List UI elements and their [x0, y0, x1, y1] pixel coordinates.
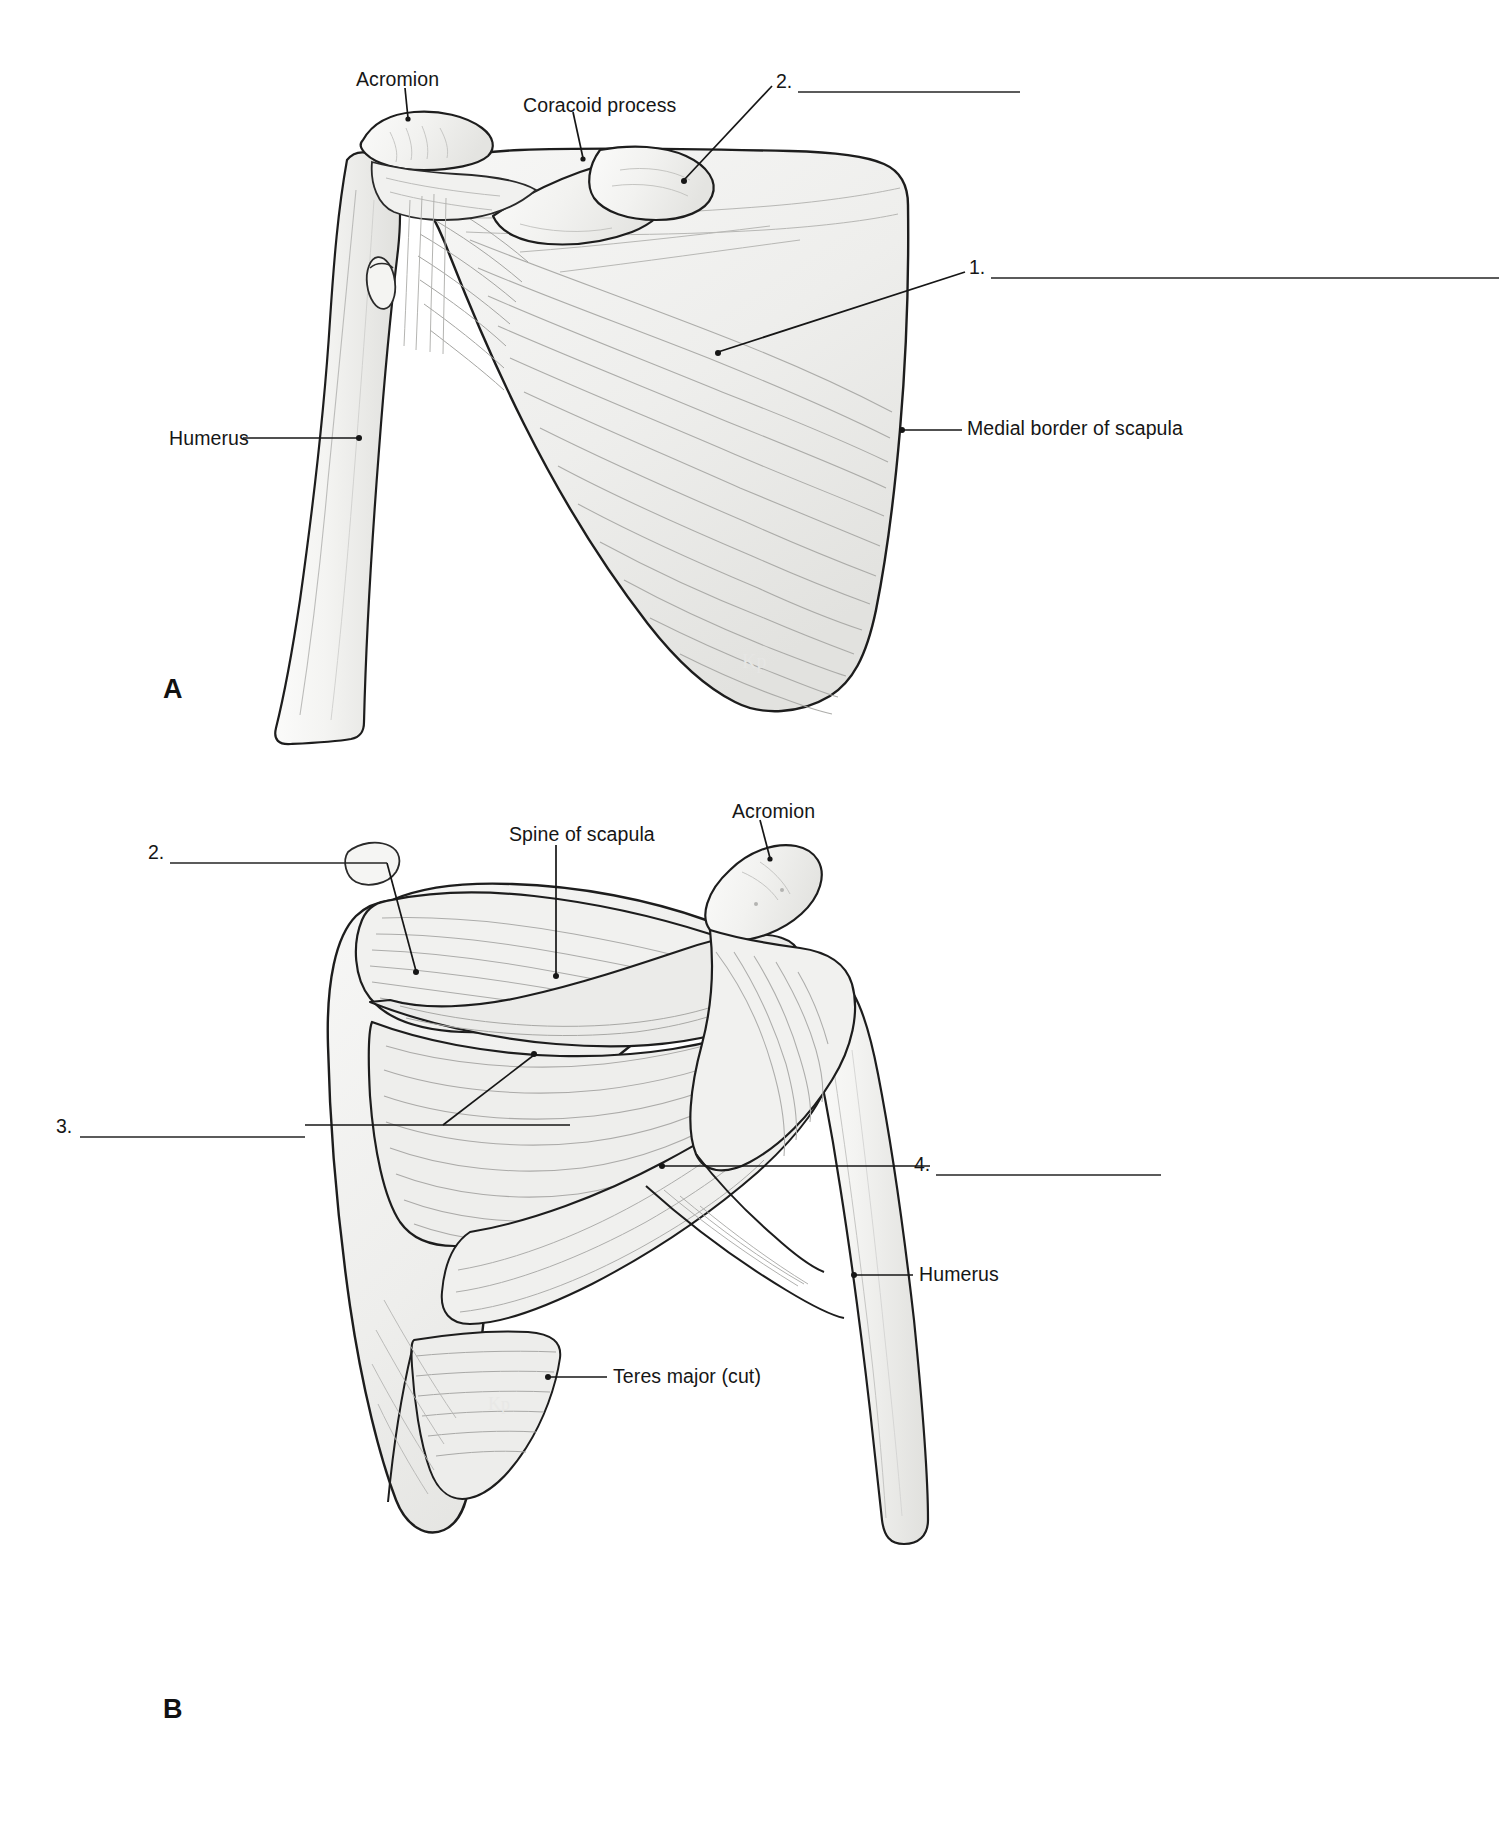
label-coracoid-process-a: Coracoid process	[523, 96, 676, 116]
artist-mark-a: Kp	[742, 650, 766, 673]
blank-number-1-a[interactable]: 1.	[969, 258, 985, 278]
label-spine-of-scapula-b: Spine of scapula	[509, 825, 655, 845]
anatomy-illustration: Kp Kp	[0, 0, 1499, 1833]
label-acromion-b: Acromion	[732, 802, 815, 822]
panel-a-figure	[275, 112, 908, 745]
blank-number-4-b[interactable]: 4.	[914, 1155, 930, 1175]
blank-number-3-b[interactable]: 3.	[56, 1117, 72, 1137]
label-humerus-a: Humerus	[169, 429, 249, 449]
label-teres-major-cut-b: Teres major (cut)	[613, 1367, 761, 1387]
label-humerus-b: Humerus	[919, 1265, 999, 1285]
worksheet-page: Kp Kp Acromion Coracoid process Humerus …	[0, 0, 1499, 1833]
blank-number-2-a[interactable]: 2.	[776, 72, 792, 92]
humeral-head-b	[690, 930, 855, 1170]
panel-letter-a: A	[163, 676, 183, 703]
panel-letter-b: B	[163, 1696, 183, 1723]
label-medial-border-of-scapula-a: Medial border of scapula	[967, 419, 1183, 439]
panel-b-figure	[328, 843, 928, 1544]
label-acromion-a: Acromion	[356, 70, 439, 90]
acromion-b	[705, 845, 821, 940]
blank-number-2-b[interactable]: 2.	[148, 843, 164, 863]
artist-mark-b: Kp	[488, 1394, 510, 1414]
humerus-bone-a	[275, 152, 400, 744]
